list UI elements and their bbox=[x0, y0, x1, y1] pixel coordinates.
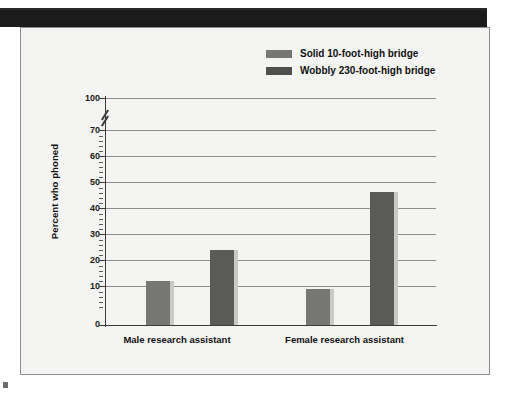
page-top-dark-band bbox=[0, 10, 487, 27]
bar-female-solid bbox=[306, 289, 330, 325]
ytick-label-60: 60 bbox=[74, 152, 100, 161]
ytick-mark-10 bbox=[99, 286, 106, 287]
figure-container: Solid 10-foot-high bridge Wobbly 230-foo… bbox=[0, 0, 512, 395]
ytick-minor-8 bbox=[99, 292, 103, 293]
ytick-mark-100 bbox=[99, 98, 106, 99]
x-category-label-male: Male research assistant bbox=[112, 334, 242, 345]
ytick-mark-20 bbox=[99, 260, 106, 261]
bar-male-solid bbox=[146, 281, 170, 325]
ytick-label-0: 0 bbox=[74, 320, 100, 329]
ytick-label-20: 20 bbox=[74, 256, 100, 265]
ytick-minor-44 bbox=[99, 198, 103, 199]
ytick-mark-50 bbox=[99, 182, 106, 183]
ytick-minor-58 bbox=[99, 162, 103, 163]
ytick-minor-56 bbox=[99, 167, 103, 168]
ytick-mark-0 bbox=[99, 325, 106, 326]
ytick-label-40: 40 bbox=[74, 204, 100, 213]
legend-swatch-solid-icon bbox=[266, 50, 292, 58]
chart-legend: Solid 10-foot-high bridge Wobbly 230-foo… bbox=[266, 46, 466, 80]
ytick-minor-38 bbox=[99, 214, 103, 215]
ytick-minor-48 bbox=[99, 188, 103, 189]
ytick-mark-60 bbox=[99, 156, 106, 157]
ytick-minor-2 bbox=[99, 307, 103, 308]
ytick-minor-54 bbox=[99, 172, 103, 173]
ytick-minor-26 bbox=[99, 245, 103, 246]
ytick-minor-16 bbox=[99, 271, 103, 272]
legend-label-solid: Solid 10-foot-high bridge bbox=[300, 48, 418, 59]
ytick-minor-36 bbox=[99, 219, 103, 220]
ytick-minor-6 bbox=[99, 297, 103, 298]
bar-male-wobbly bbox=[210, 250, 234, 325]
ytick-label-10: 10 bbox=[74, 282, 100, 291]
ytick-minor-18 bbox=[99, 266, 103, 267]
ytick-minor-64 bbox=[99, 146, 103, 147]
ytick-minor-46 bbox=[99, 193, 103, 194]
ytick-label-30: 30 bbox=[74, 230, 100, 239]
ytick-label-50: 50 bbox=[74, 178, 100, 187]
gridline-60 bbox=[106, 156, 436, 157]
ytick-mark-30 bbox=[99, 234, 106, 235]
x-category-label-female: Female research assistant bbox=[272, 334, 417, 345]
ytick-minor-14 bbox=[99, 276, 103, 277]
ytick-minor-28 bbox=[99, 240, 103, 241]
bar-female-wobbly bbox=[370, 192, 394, 325]
ytick-minor-4 bbox=[99, 302, 103, 303]
x-axis-line bbox=[105, 325, 437, 326]
ytick-label-70: 70 bbox=[74, 126, 100, 135]
legend-label-wobbly: Wobbly 230-foot-high bridge bbox=[300, 65, 435, 76]
ytick-mark-70 bbox=[99, 130, 106, 131]
gridline-50 bbox=[106, 182, 436, 183]
scan-artifact bbox=[3, 382, 8, 388]
y-axis-title: Percent who phoned bbox=[49, 132, 60, 252]
legend-swatch-wobbly-icon bbox=[266, 67, 292, 75]
plot-area bbox=[106, 98, 436, 325]
ytick-minor-34 bbox=[99, 224, 103, 225]
ytick-mark-40 bbox=[99, 208, 106, 209]
ytick-minor-68 bbox=[99, 136, 103, 137]
legend-item-wobbly: Wobbly 230-foot-high bridge bbox=[266, 63, 466, 78]
ytick-minor-66 bbox=[99, 141, 103, 142]
ytick-label-100: 100 bbox=[74, 94, 100, 103]
gridline-100 bbox=[106, 98, 436, 99]
gridline-70 bbox=[106, 130, 436, 131]
legend-item-solid: Solid 10-foot-high bridge bbox=[266, 46, 466, 61]
ytick-minor-24 bbox=[99, 250, 103, 251]
